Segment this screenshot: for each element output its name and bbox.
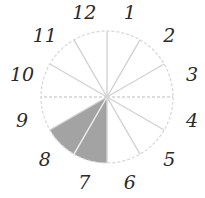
spoke-line (50, 64, 107, 97)
spoke-line (107, 97, 140, 154)
spoke-line (107, 40, 140, 97)
spoke-line (74, 40, 107, 97)
hour-label-10: 10 (10, 63, 34, 85)
clock-diagram: 121234567891011 (0, 0, 205, 198)
shaded-sectors (50, 97, 107, 163)
hour-label-3: 3 (186, 63, 198, 85)
hour-label-7: 7 (78, 171, 91, 193)
hour-label-8: 8 (39, 148, 51, 170)
hour-label-6: 6 (124, 171, 136, 193)
hour-label-12: 12 (72, 1, 96, 23)
spoke-line (107, 97, 164, 130)
hour-label-2: 2 (162, 24, 175, 46)
hour-label-1: 1 (124, 1, 136, 23)
hour-label-9: 9 (16, 109, 28, 131)
hour-label-11: 11 (33, 24, 57, 46)
hour-label-4: 4 (185, 109, 198, 131)
hour-label-5: 5 (163, 148, 175, 170)
spoke-line (107, 64, 164, 97)
